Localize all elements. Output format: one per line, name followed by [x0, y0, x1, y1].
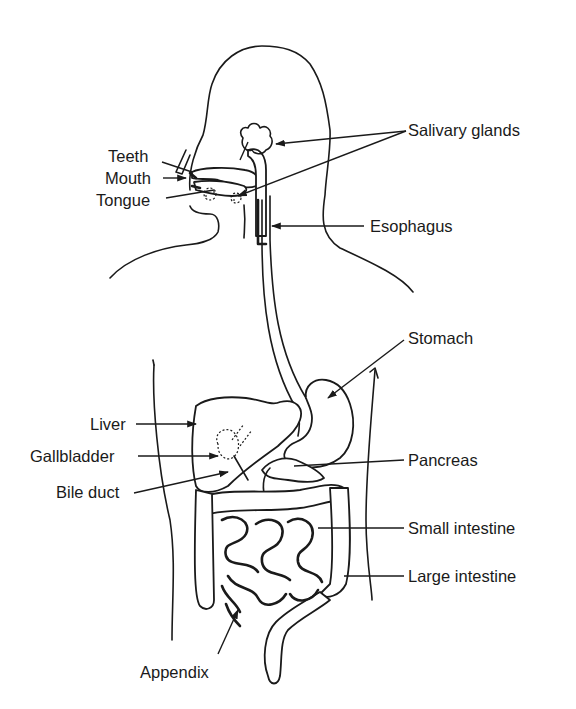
label-tongue: Tongue — [96, 191, 150, 209]
label-salivary-glands: Salivary glands — [408, 121, 520, 139]
label-gallbladder: Gallbladder — [30, 447, 115, 465]
digestive-system-diagram: Salivary glands Teeth Mouth Tongue Esoph… — [0, 0, 576, 709]
label-stomach: Stomach — [408, 329, 473, 347]
label-pancreas: Pancreas — [408, 451, 478, 469]
label-mouth: Mouth — [105, 169, 151, 187]
label-small-intestine: Small intestine — [408, 519, 515, 537]
label-liver: Liver — [90, 415, 126, 433]
left-torso-line — [154, 365, 174, 640]
right-torso-line — [366, 370, 375, 600]
small-intestine — [222, 517, 322, 612]
label-bile-duct: Bile duct — [56, 483, 120, 501]
label-esophagus: Esophagus — [370, 217, 453, 235]
labels: Salivary glands Teeth Mouth Tongue Esoph… — [30, 121, 520, 681]
label-large-intestine: Large intestine — [408, 567, 516, 585]
label-teeth: Teeth — [108, 147, 148, 165]
label-appendix: Appendix — [140, 663, 210, 681]
